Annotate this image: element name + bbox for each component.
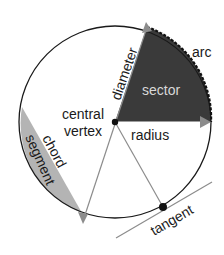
label-arc: arc <box>192 44 211 60</box>
label-radius: radius <box>131 127 169 143</box>
label-tangent: tangent <box>148 201 197 238</box>
diameter-arrow-bottom <box>78 212 88 224</box>
central-vertex-point <box>112 119 118 125</box>
tangent-point <box>159 203 167 211</box>
label-central: central <box>62 106 104 122</box>
circle-diagram: arc sector diameter central vertex radiu… <box>0 0 224 255</box>
label-sector: sector <box>142 82 180 98</box>
label-vertex: vertex <box>64 123 102 139</box>
